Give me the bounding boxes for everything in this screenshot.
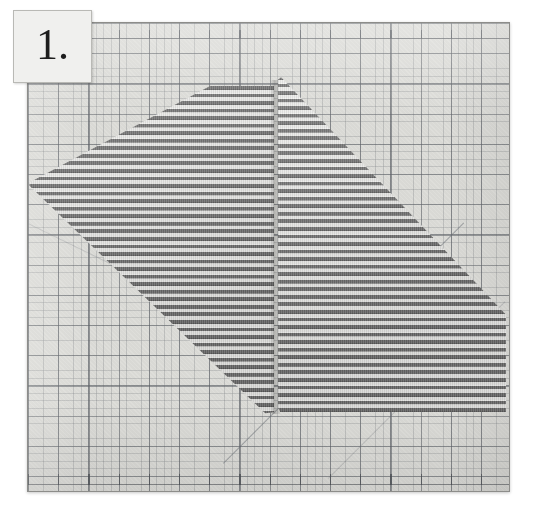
instruction-photo: 1. Striped fabric cut into two pieces la… bbox=[0, 0, 537, 516]
photo-caption: Striped fabric cut into two pieces laid … bbox=[0, 0, 1, 1]
step-number-label: 1. bbox=[13, 10, 92, 83]
step-number-text: 1. bbox=[36, 23, 69, 71]
